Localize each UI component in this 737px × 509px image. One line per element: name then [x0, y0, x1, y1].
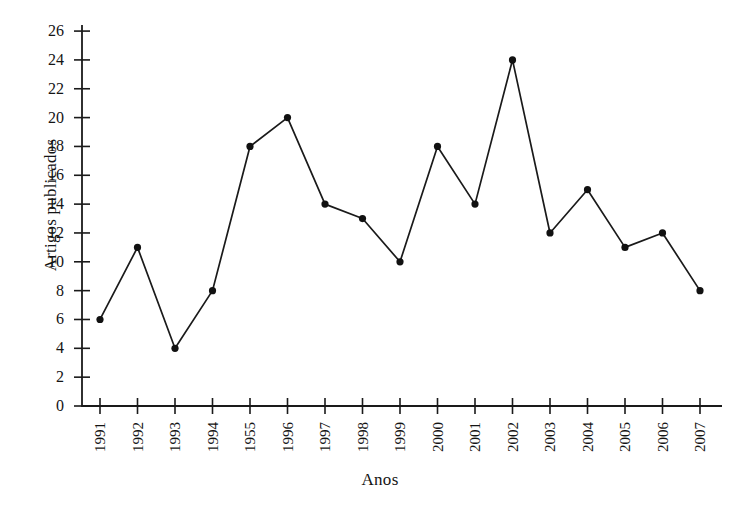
data-point — [509, 56, 516, 63]
data-point — [321, 201, 328, 208]
data-point — [546, 229, 553, 236]
line-chart: Artigos publicados Anos 0246810121416182… — [0, 0, 737, 509]
data-point — [696, 287, 703, 294]
data-point — [171, 345, 178, 352]
data-point — [246, 143, 253, 150]
data-point — [134, 244, 141, 251]
data-point — [584, 186, 591, 193]
data-point — [209, 287, 216, 294]
data-point — [284, 114, 291, 121]
data-point — [471, 201, 478, 208]
data-point — [396, 258, 403, 265]
data-point — [434, 143, 441, 150]
data-point-markers — [96, 56, 703, 352]
data-point — [96, 316, 103, 323]
data-point — [359, 215, 366, 222]
data-point — [659, 229, 666, 236]
data-line-series — [100, 60, 700, 348]
plot-area — [0, 0, 737, 509]
data-point — [621, 244, 628, 251]
